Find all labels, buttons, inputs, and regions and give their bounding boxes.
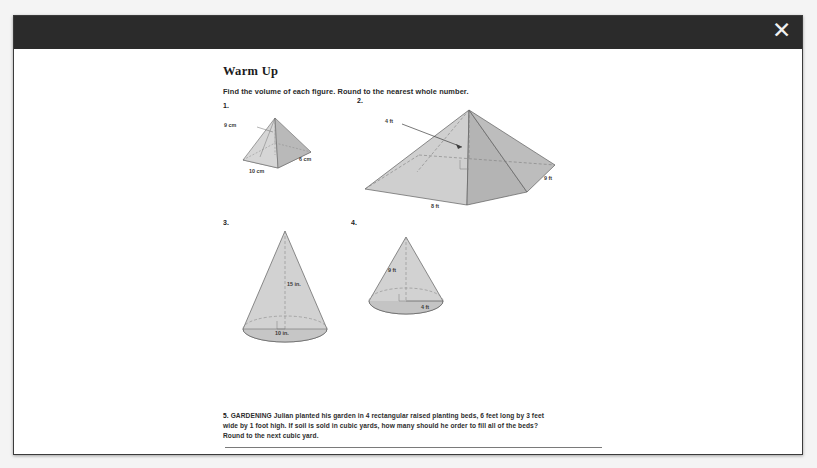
problem-2-height-label: 4 ft [385, 118, 393, 124]
page-title: Warm Up [223, 64, 610, 79]
problem-4-height-label: 9 ft [388, 267, 396, 273]
worksheet-modal: ✕ Warm Up Find the volume of each figure… [13, 15, 803, 455]
problem-5-number: 5. [223, 412, 229, 419]
worksheet-content: Warm Up Find the volume of each figure. … [214, 64, 610, 449]
problem-3-diameter-label: 10 in. [275, 330, 289, 336]
problem-2-base-width-label: 9 ft [544, 175, 552, 181]
problem-1-number: 1. [223, 102, 229, 109]
problem-5-topic: GARDENING [231, 412, 272, 419]
modal-header-bar: ✕ [14, 16, 802, 49]
problem-3-number: 3. [223, 219, 229, 226]
problem-2-number: 2. [357, 97, 363, 104]
content-divider [225, 447, 602, 448]
problem-1-height-label: 9 cm [224, 122, 236, 128]
problem-1-base-width-label: 6 cm [299, 156, 311, 162]
close-icon[interactable]: ✕ [766, 16, 796, 46]
problem-5: 5. GARDENING Julian planted his garden i… [223, 411, 553, 441]
problem-4-number: 4. [351, 219, 357, 226]
modal-body: Warm Up Find the volume of each figure. … [14, 49, 802, 454]
problem-4-figure [351, 219, 481, 339]
problem-1-figure [223, 102, 343, 172]
problem-1-base-length-label: 10 cm [249, 168, 264, 174]
problem-3-height-label: 15 in. [287, 281, 301, 287]
problem-1: 1. [223, 102, 343, 172]
instructions-text: Find the volume of each figure. Round to… [223, 87, 610, 96]
problem-4-radius-label: 4 ft [421, 304, 429, 310]
problem-4: 4. 9 ft 4 ft [351, 219, 481, 339]
problem-5-text: Julian planted his garden in 4 rectangul… [223, 412, 544, 439]
problem-2-base-length-label: 8 ft [431, 203, 439, 209]
problem-2-figure [357, 97, 587, 217]
problem-2: 2. [357, 97, 587, 217]
problem-3: 3. 15 in. 10 in. [223, 219, 353, 354]
